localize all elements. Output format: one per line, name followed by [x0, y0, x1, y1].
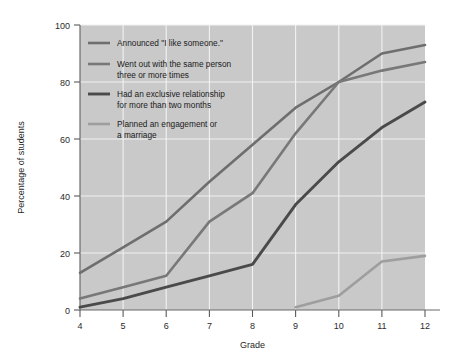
legend-label-planned-line2: a marriage: [117, 130, 157, 140]
y-tick-label-20: 20: [60, 249, 70, 259]
x-tick-label-7: 7: [207, 321, 212, 331]
legend-label-went-out-line1: Went out with the same person: [117, 59, 232, 69]
x-tick-label-6: 6: [164, 321, 169, 331]
x-tick-label-10: 10: [334, 321, 344, 331]
x-tick-label-5: 5: [121, 321, 126, 331]
y-tick-label-80: 80: [60, 78, 70, 88]
x-tick-label-11: 11: [377, 321, 386, 331]
x-axis-title: Grade: [240, 340, 265, 350]
legend-label-went-out-line2: three or more times: [117, 70, 189, 80]
y-tick-label-60: 60: [60, 135, 70, 145]
y-tick-label-100: 100: [55, 21, 70, 31]
line-chart: 100 80 60 40 20 0 4 5 6 7 8 9 10 11: [0, 0, 462, 357]
x-tick-label-12: 12: [420, 321, 430, 331]
y-tick-label-40: 40: [60, 192, 70, 202]
chart-container: 100 80 60 40 20 0 4 5 6 7 8 9 10 11: [0, 0, 462, 357]
legend-label-exclusive-line1: Had an exclusive relationship: [117, 89, 225, 99]
y-axis-title: Percentage of students: [16, 121, 26, 214]
y-tick-label-0: 0: [65, 306, 70, 316]
legend-label-announced-line1: Announced "I like someone.": [117, 38, 223, 48]
legend-label-exclusive-line2: for more than two months: [117, 100, 211, 110]
x-tick-label-9: 9: [293, 321, 298, 331]
x-tick-label-8: 8: [250, 321, 255, 331]
legend-label-planned-line1: Planned an engagement or: [117, 119, 217, 129]
x-tick-label-4: 4: [77, 321, 82, 331]
